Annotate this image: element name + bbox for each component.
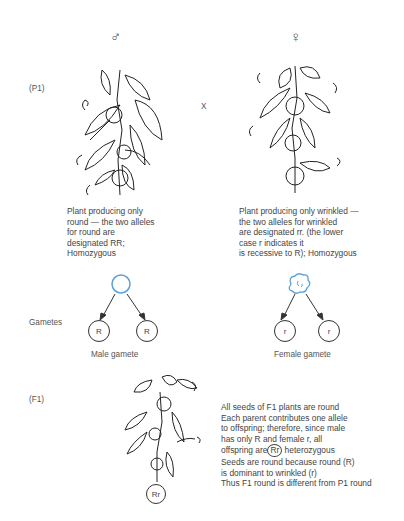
f1-note-line: Each parent contributes one allele	[221, 413, 404, 424]
female-symbol: ♀	[290, 28, 301, 45]
female-parent-description: Plant producing only wrinkled — the two …	[239, 206, 404, 259]
female-gamete-allele-2: r	[318, 320, 340, 342]
female-gamete-arrows	[270, 292, 340, 322]
f1-note-line: All seeds of F1 plants are round	[221, 402, 404, 413]
male-symbol: ♂	[110, 28, 121, 45]
f1-genotype-badge: Rr	[146, 484, 166, 504]
male-gamete-caption: Male gamete	[91, 350, 138, 359]
f1-note-line: Thus F1 round is different from P1 round	[221, 478, 404, 489]
gametes-label: Gametes	[29, 318, 62, 327]
circled-genotype: Rr	[267, 444, 282, 457]
f1-notes: All seeds of F1 plants are round Each pa…	[221, 402, 404, 489]
f1-note-line: to offspring; therefore, since male	[221, 423, 404, 434]
male-gamete-allele-1: R	[88, 320, 110, 342]
female-gamete-allele-1: r	[274, 320, 296, 342]
male-parent-description: Plant producing only round — the two all…	[67, 206, 217, 259]
male-pea-plant-illustration	[70, 60, 165, 195]
f1-label: (F1)	[29, 395, 44, 404]
f1-note-line: is dominant to wrinkled (r)	[221, 468, 404, 479]
female-gamete-caption: Female gamete	[274, 350, 331, 359]
f1-pea-plant-illustration	[122, 372, 207, 482]
cross-symbol: X	[201, 102, 206, 111]
f1-note-line: offspring areRr heterozygous	[221, 444, 404, 457]
male-gamete-arrows	[95, 292, 165, 322]
f1-note-line: Seeds are round because round (R)	[221, 457, 404, 468]
f1-note-line: has only R and female r, all	[221, 434, 404, 445]
p1-label: (P1)	[29, 84, 44, 93]
female-pea-plant-illustration	[245, 58, 345, 193]
male-gamete-allele-2: R	[136, 320, 158, 342]
